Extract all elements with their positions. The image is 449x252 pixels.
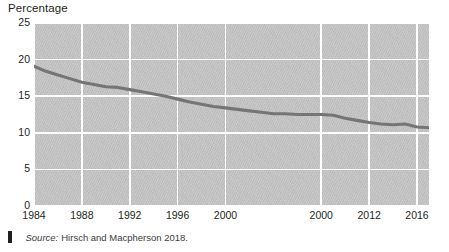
x-tick-label: 1984	[22, 209, 45, 221]
x-tick-label: 2012	[357, 209, 380, 221]
y-tick-label: 10	[2, 126, 30, 138]
x-tick-label: 1996	[166, 209, 189, 221]
x-tick-label: 2016	[405, 209, 428, 221]
series-line-percentage	[34, 23, 429, 206]
plot-area	[34, 23, 429, 206]
y-tick-label: 25	[2, 16, 30, 28]
source-text: Hirsch and Macpherson 2018.	[61, 232, 188, 243]
x-tick-label: 2000	[310, 209, 333, 221]
x-tick-label: 1992	[118, 209, 141, 221]
source-marker-icon	[8, 231, 12, 243]
x-axis-ticks: 19841988199219962000200020122016	[0, 209, 449, 227]
y-tick-label: 15	[2, 89, 30, 101]
source-label: Source:	[26, 232, 59, 243]
y-tick-label: 5	[2, 162, 30, 174]
source-note: Source: Hirsch and Macpherson 2018.	[8, 231, 188, 243]
x-tick-label: 2000	[214, 209, 237, 221]
x-tick-label: 1988	[70, 209, 93, 221]
chart-figure: Percentage 0510152025 198419881992199620…	[0, 0, 449, 252]
plot-wrapper: 0510152025 19841988199219962000200020122…	[0, 0, 449, 252]
y-tick-label: 20	[2, 53, 30, 65]
